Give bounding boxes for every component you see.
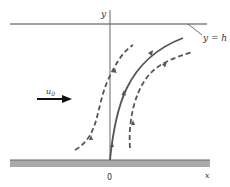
origin-label: 0 xyxy=(107,173,112,182)
streamline-dashed-left xyxy=(75,45,133,150)
streamline-dashed-right xyxy=(130,52,193,148)
streamline-solid-arrow-1 xyxy=(110,142,114,147)
flow-arrow-head xyxy=(62,95,72,103)
x-axis-label: x xyxy=(205,171,210,180)
boundary-label: y = h xyxy=(202,33,227,43)
y-axis-label: y xyxy=(100,9,107,19)
boundary-pointer xyxy=(188,24,202,35)
wall xyxy=(10,160,210,167)
velocity-label: u0 xyxy=(46,87,55,97)
flow-diagram: y = h y 0 x u0 xyxy=(0,0,230,187)
